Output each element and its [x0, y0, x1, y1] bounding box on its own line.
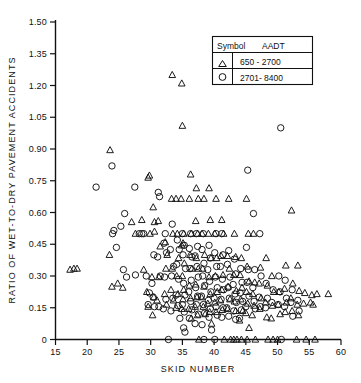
y-tick-label: 1.35	[29, 49, 47, 59]
data-point-triangle	[195, 195, 202, 201]
data-point-triangle	[138, 216, 145, 222]
y-tick-label: 0	[42, 335, 47, 345]
data-point-circle	[161, 274, 167, 280]
data-point-triangle	[161, 290, 168, 296]
data-point-triangle	[206, 185, 213, 191]
x-tick-label: 40	[209, 347, 219, 357]
data-point-triangle	[249, 312, 256, 318]
y-axis-ticks: 00.150.300.450.600.750.901.051.201.351.5…	[29, 17, 56, 345]
data-point-triangle	[149, 312, 156, 318]
data-point-triangle	[269, 273, 276, 279]
data-point-triangle	[169, 71, 176, 77]
data-point-triangle	[288, 207, 295, 213]
data-point-circle	[93, 184, 99, 190]
data-point-circle	[195, 274, 201, 280]
data-point-triangle	[106, 251, 113, 257]
data-point-triangle	[244, 263, 251, 269]
data-point-circle	[149, 280, 155, 286]
data-point-triangle	[151, 228, 158, 234]
data-point-triangle	[178, 195, 185, 201]
data-point-circle	[212, 250, 218, 256]
data-point-triangle	[207, 216, 214, 222]
data-point-triangle	[296, 287, 303, 293]
data-point-circle	[243, 244, 249, 250]
x-tick-label: 30	[145, 347, 155, 357]
data-point-circle	[206, 278, 212, 284]
data-point-triangle	[302, 289, 309, 295]
data-point-circle	[278, 125, 284, 131]
chart-canvas: 00.150.300.450.600.750.901.051.201.351.5…	[0, 0, 361, 383]
data-point-circle	[217, 263, 223, 269]
data-point-circle	[186, 245, 192, 251]
data-point-circle	[201, 260, 207, 266]
series-markers-triangle	[67, 71, 332, 342]
data-point-triangle	[289, 280, 296, 286]
y-tick-label: 1.05	[29, 112, 47, 122]
data-point-triangle	[246, 324, 253, 330]
data-point-triangle	[201, 195, 208, 201]
data-point-circle	[155, 189, 161, 195]
data-point-circle	[250, 210, 256, 216]
data-point-circle	[233, 299, 239, 305]
x-tick-label: 45	[241, 347, 251, 357]
y-tick-label: 0.75	[29, 176, 47, 186]
data-point-triangle	[243, 195, 250, 201]
data-point-circle	[180, 252, 186, 258]
data-point-circle	[257, 230, 263, 236]
data-point-triangle	[208, 320, 215, 326]
data-point-circle	[199, 246, 205, 252]
data-point-circle	[199, 321, 205, 327]
data-point-circle	[182, 329, 188, 335]
data-point-circle	[168, 308, 174, 314]
data-point-circle	[113, 244, 119, 250]
data-point-triangle	[178, 80, 185, 86]
data-point-triangle	[226, 265, 233, 271]
y-tick-label: 0.45	[29, 239, 47, 249]
data-point-circle	[226, 313, 232, 319]
data-point-circle	[199, 273, 205, 279]
x-tick-label: 50	[272, 347, 282, 357]
data-point-circle	[180, 325, 186, 331]
data-point-circle	[132, 184, 138, 190]
data-point-circle	[208, 327, 214, 333]
legend: Symbol AADT 650 - 2700 2701- 8400	[213, 37, 313, 85]
data-point-circle	[174, 237, 180, 243]
y-tick-label: 0.15	[29, 303, 47, 313]
data-point-triangle	[325, 290, 332, 296]
data-point-triangle	[238, 255, 245, 261]
data-point-triangle	[201, 251, 208, 257]
data-point-circle	[219, 276, 225, 282]
data-point-circle	[226, 247, 232, 253]
data-point-circle	[132, 272, 138, 278]
data-point-triangle	[281, 285, 288, 291]
data-point-triangle	[295, 262, 302, 268]
data-point-circle	[120, 266, 126, 272]
data-point-circle	[276, 273, 282, 279]
data-point-circle	[177, 315, 183, 321]
legend-header-value: AADT	[262, 41, 285, 51]
data-point-triangle	[150, 204, 157, 210]
data-point-circle	[118, 223, 124, 229]
data-point-circle	[230, 281, 236, 287]
x-tick-label: 55	[304, 347, 314, 357]
y-tick-label: 1.50	[29, 17, 47, 27]
data-point-circle	[188, 277, 194, 283]
data-point-circle	[256, 294, 262, 300]
data-point-triangle	[250, 230, 257, 236]
data-point-circle	[168, 273, 174, 279]
data-point-triangle	[179, 122, 186, 128]
data-point-circle	[238, 265, 244, 271]
data-point-triangle	[263, 255, 270, 261]
data-point-circle	[289, 287, 295, 293]
y-tick-label: 0.30	[29, 271, 47, 281]
legend-label-triangle: 650 - 2700	[240, 57, 281, 67]
data-point-circle	[245, 266, 251, 272]
data-point-triangle	[168, 286, 175, 292]
x-tick-label: 15	[50, 347, 60, 357]
y-axis-title: RATIO OF WET-TO-DRY PAVEMENT ACCIDENTS	[7, 56, 17, 303]
data-point-circle	[232, 271, 238, 277]
scatter-plot-figure: 00.150.300.450.600.750.901.051.201.351.5…	[0, 0, 361, 383]
data-point-circle	[224, 261, 230, 267]
data-point-circle	[154, 254, 160, 260]
series-markers-circle	[93, 125, 302, 343]
